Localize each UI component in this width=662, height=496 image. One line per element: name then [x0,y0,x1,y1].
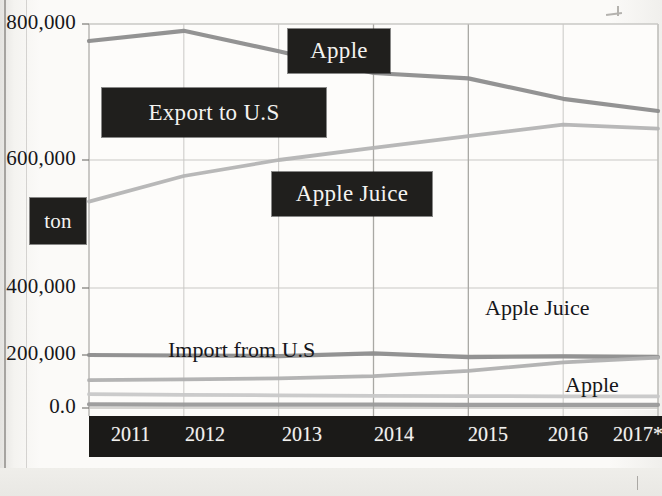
x-axis-tick-label: 2015 [468,423,508,446]
y-axis-tick-label: 0.0 [49,394,76,419]
x-axis-tick-label: 2011 [111,423,150,446]
scan-artifact-icon [604,4,626,20]
series-label-apple-import: Apple [565,372,619,398]
redacted-label-apple-juice-export: Apple Juice [272,172,432,216]
series-label-import-from-us: Import from U.S [168,337,315,363]
redacted-label-apple-export: Apple [288,29,390,73]
y-axis-tick-label: 400,000 [6,274,76,299]
series-line [89,404,658,405]
x-axis-tick-label: 2012 [185,423,225,446]
y-axis-tick-label: 600,000 [6,146,76,171]
x-axis-year-strip: 2011201220132014201520162017* [89,416,662,457]
x-axis-tick-label: 2017* [613,423,662,446]
x-axis-tick-label: 2013 [282,423,322,446]
redacted-label-ton-unit: ton [30,198,86,244]
series-label-apple-juice-import: Apple Juice [485,295,589,321]
line-chart: 800,000600,000400,000200,0000.0 20112012… [0,0,662,496]
y-axis-tick-labels: 800,000600,000400,000200,0000.0 [0,0,86,496]
x-axis-tick-label: 2014 [374,423,414,446]
x-axis-tick-label: 2016 [548,423,588,446]
redacted-label-export-to-us: Export to U.S [102,88,326,137]
y-axis-tick-label: 200,000 [6,341,76,366]
scan-tickmark-icon [637,476,638,490]
y-axis-tick-label: 800,000 [6,10,76,35]
